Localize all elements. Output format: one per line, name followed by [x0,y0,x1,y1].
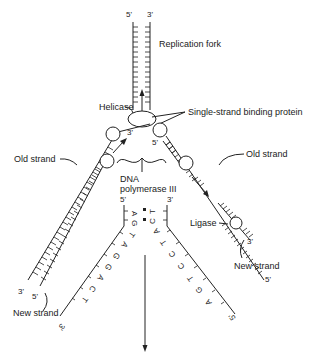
h-bond-dot [143,208,146,211]
replication-fork-label: Replication fork [159,39,222,49]
replication-fork-diagram: 5' 3' Replication fork Helicase Single-s… [0,0,312,353]
base-left-diag-C: C [87,284,98,294]
base-left-A: A [130,211,139,217]
synthesis-direction-arrow-icon [143,255,148,352]
base-right-diag-T: T [158,238,168,247]
left-arm: 3' Old strand 3' 5' New strand [13,127,133,318]
base-right-diag-A: A [151,226,162,236]
base-right-T: T [148,209,157,214]
dna-polymerase-label-line2: polymerase III [120,184,177,194]
new-strand-left-label: New strand [13,308,59,318]
dna-polymerase-circle-lagging [179,156,193,170]
base-right-diag-C: C [167,249,178,259]
ligase-circle [230,217,242,229]
h-bond-dot [143,218,146,221]
dna-polymerase-circle-leading [100,154,114,168]
base-left-diag-T2: T [79,295,89,304]
ssb-circle-right [153,123,167,137]
base-left-G: G [130,220,139,226]
top-3prime-label: 3' [147,10,153,19]
parent-duplex: 5' 3' Replication fork [126,10,222,111]
base-left-diag-G: G [111,251,122,261]
ligase-label: Ligase [190,218,217,228]
base-left-diag-A: A [119,240,130,250]
base-right-diag-T2: T [185,274,195,283]
ssb-circle-left [106,127,120,141]
right-5prime-label: 5' [265,275,271,284]
base-left-diag-G2: G [103,262,114,272]
ssb-label: Single-strand binding protein [188,107,303,117]
right-3prime-label: 3' [247,237,253,246]
lagging-5prime-label: 5' [152,138,158,147]
old-strand-left-label: Old strand [14,154,56,164]
helicase-label: Helicase [99,102,134,112]
base-right-C: C [148,218,157,224]
dna-polymerase-iii: DNA polymerase III [117,158,177,194]
helicase: Helicase [99,102,156,127]
seq-left-5prime-label: 5' [120,195,126,204]
top-5prime-label: 5' [126,10,132,19]
base-right-diag-G: G [194,285,205,295]
leading-3prime-label: 3' [127,128,133,137]
okazaki-fragment-middle [192,177,209,197]
dna-polymerase-label-line1: DNA [120,174,139,184]
old-strand-right-label: Old strand [246,149,288,159]
fork-direction-arrow-icon [140,89,145,111]
left-5prime-label: 5' [32,292,38,301]
new-strand-right-label: New strand [234,261,280,271]
base-left-diag-A2: A [95,273,106,283]
seq-right-end-5prime-label: 5' [227,312,238,322]
base-left-diag-T: T [126,230,136,239]
left-3prime-label: 3' [18,287,24,296]
base-right-diag-C2: C [176,261,187,271]
seq-right-3prime-label: 3' [167,195,173,204]
seq-left-end-3prime-label: 3' [56,322,67,332]
base-right-diag-A2: A [203,297,214,307]
